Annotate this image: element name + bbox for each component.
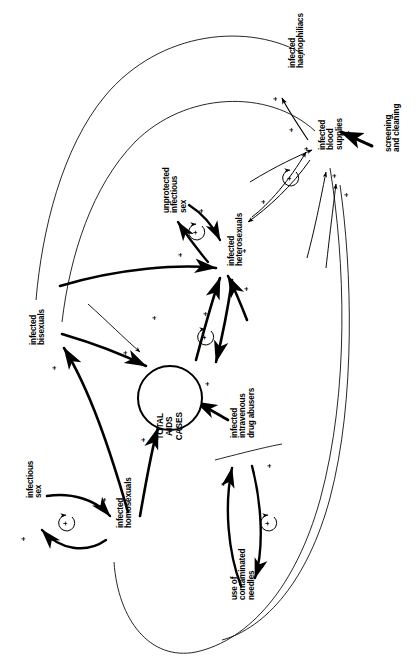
node-screening-and-cleaning: screening and cleaning bbox=[385, 104, 402, 152]
node-infectious-sex: infectious sex bbox=[27, 461, 44, 498]
sign-aids-from-drug: + bbox=[204, 382, 212, 387]
sign-hetero-sex-plus: + bbox=[198, 209, 206, 214]
sign-blood-in-lower-a: + bbox=[331, 174, 339, 179]
loop-polarity-aids-heterosexual: + bbox=[200, 335, 209, 340]
node-total-aids-cases: TOTAL AIDS CASES bbox=[156, 412, 184, 440]
loop-polarity-blood-heterosexual: + bbox=[285, 176, 294, 181]
sign-sex-to-hetero-plus: + bbox=[177, 253, 185, 258]
sign-drug-needles-plus: + bbox=[266, 464, 274, 469]
loop-heterosexuals-blood bbox=[248, 152, 310, 222]
sign-bisexual-in: + bbox=[51, 366, 59, 371]
sign-homo-to-sex-plus: + bbox=[101, 498, 109, 503]
loop-polarity-homosexual-sex: + bbox=[61, 521, 70, 526]
link-bisexuals-to-heterosexuals bbox=[60, 267, 216, 286]
sign-blood-from-hetero: + bbox=[288, 128, 296, 133]
sign-bisexual-to-aids: + bbox=[151, 316, 159, 321]
node-use-of-contaminated-needles: use of contaminated needles bbox=[231, 549, 256, 600]
node-infected-heterosexuals: infected heterosexuals bbox=[228, 213, 245, 266]
sign-hetero-in-bisexual: + bbox=[241, 249, 249, 254]
sign-screening-minus: - bbox=[344, 131, 352, 134]
node-unprotected-infectious-sex: unprotected infectious sex bbox=[163, 167, 188, 213]
node-infected-homosexuals: infected homosexuals bbox=[117, 477, 134, 528]
sign-blood-in-lower-b: + bbox=[343, 193, 351, 198]
outer-feedback-arc-drug-return bbox=[215, 444, 282, 460]
link-bisexuals-to-blood bbox=[250, 150, 312, 182]
node-infected-bisexuals: infected bisexuals bbox=[30, 309, 47, 345]
sign-hetero-in-drug: + bbox=[243, 287, 251, 292]
outer-feedback-arc-blood bbox=[62, 101, 315, 322]
sign-haemophiliacs-in: + bbox=[272, 97, 280, 102]
sign-aids-from-bisexual: + bbox=[122, 351, 130, 356]
diagram-wiring bbox=[0, 0, 417, 664]
link-homosexuals-to-blood bbox=[307, 172, 326, 258]
link-bisexuals-to-aids bbox=[62, 334, 146, 366]
sign-infectious-sex-plus: + bbox=[20, 537, 28, 542]
loop-infectious-sex-homosexuals bbox=[42, 495, 110, 548]
sign-aids-from-homosexual: + bbox=[140, 438, 148, 443]
node-infected-haemophiliacs: infected haemophiliacs bbox=[289, 13, 306, 68]
sign-drug-in-plus: + bbox=[220, 482, 228, 487]
link-blood-to-haemophiliacs bbox=[282, 98, 308, 140]
loop-heterosexuals-aids bbox=[196, 278, 232, 362]
node-infected-blood-supplies: infected blood supplies bbox=[319, 118, 344, 150]
loop-polarity-needles: + bbox=[263, 521, 272, 526]
link-drug-to-blood bbox=[326, 184, 336, 268]
sign-hetero-from-loop: + bbox=[260, 200, 268, 205]
sign-blood-from-bisexual: + bbox=[303, 147, 311, 152]
causal-loop-diagram-canvas: TOTAL AIDS CASES infected haemophiliacs … bbox=[0, 0, 417, 664]
sign-needles-to-drug-plus: + bbox=[259, 564, 267, 569]
loop-polarity-heterosexual-sex: + bbox=[191, 230, 200, 235]
sign-hetero-to-aids: + bbox=[202, 312, 210, 317]
node-infected-iv-drug-abusers: infected intravenous drug abusers bbox=[231, 388, 256, 438]
link-screening-to-blood bbox=[341, 132, 372, 146]
